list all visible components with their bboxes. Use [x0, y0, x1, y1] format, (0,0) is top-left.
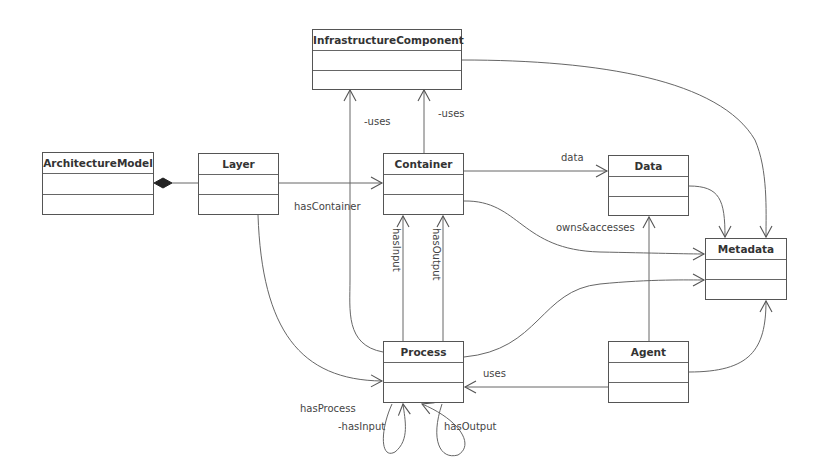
- class-metadata[interactable]: Metadata: [705, 238, 787, 300]
- class-agent[interactable]: Agent: [608, 341, 689, 403]
- label-has-output: hasOutput: [431, 228, 442, 280]
- class-name: Metadata: [706, 239, 786, 260]
- class-layer[interactable]: Layer: [198, 153, 279, 215]
- attributes-compartment: [609, 363, 688, 383]
- attributes-compartment: [43, 174, 153, 195]
- class-name: Container: [384, 154, 463, 175]
- attributes-compartment: [706, 260, 786, 280]
- attributes-compartment: [199, 175, 278, 195]
- label-data: data: [561, 152, 584, 163]
- label-has-process: hasProcess: [300, 403, 356, 414]
- attributes-compartment: [313, 51, 461, 71]
- attributes-compartment: [384, 175, 463, 195]
- composition-diamond-icon: [154, 178, 172, 188]
- class-name: ArchitectureModel: [43, 153, 153, 174]
- class-name: Data: [609, 156, 688, 177]
- class-architecture-model[interactable]: ArchitectureModel: [42, 152, 154, 215]
- label-has-container: hasContainer: [294, 201, 361, 212]
- attributes-compartment: [384, 363, 463, 383]
- class-name: InfrastructureComponent: [313, 30, 461, 51]
- label-uses-right: -uses: [438, 108, 465, 119]
- label-uses-left: -uses: [364, 116, 391, 127]
- class-name: Layer: [199, 154, 278, 175]
- class-name: Agent: [609, 342, 688, 363]
- class-container[interactable]: Container: [383, 153, 464, 215]
- attributes-compartment: [609, 177, 688, 197]
- class-process[interactable]: Process: [383, 341, 464, 403]
- label-self-has-output: hasOutput: [444, 421, 496, 432]
- class-data[interactable]: Data: [608, 155, 689, 216]
- uml-class-diagram: InfrastructureComponent ArchitectureMode…: [0, 0, 826, 472]
- class-infrastructure-component[interactable]: InfrastructureComponent: [312, 29, 462, 90]
- class-name: Process: [384, 342, 463, 363]
- label-owns-accesses: owns&accesses: [556, 222, 635, 233]
- label-uses-agent: uses: [483, 368, 506, 379]
- label-self-has-input: -hasInput: [338, 421, 385, 432]
- label-has-input: hasInput: [391, 228, 402, 272]
